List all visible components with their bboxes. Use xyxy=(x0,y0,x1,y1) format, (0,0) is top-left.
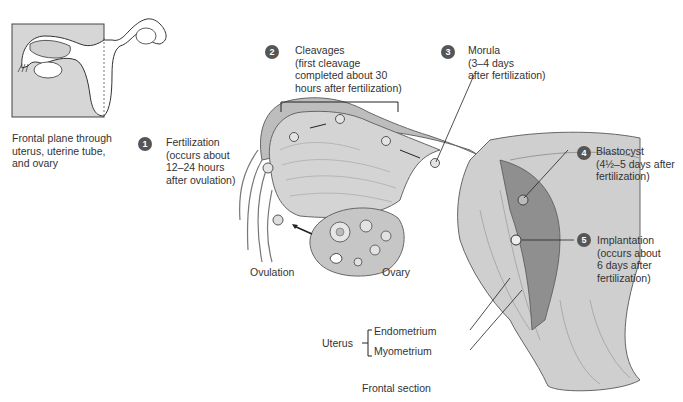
myometrium-label: Myometrium xyxy=(374,345,432,358)
step-4-label: Blastocyst (4½–5 days after fertilizatio… xyxy=(596,145,675,183)
step-1-label: Fertilization (occurs about 12–24 hours … xyxy=(166,136,235,186)
step-2-badge: 2 xyxy=(265,45,279,59)
endometrium-label: Endometrium xyxy=(374,325,436,338)
step-5-label: Implantation (occurs about 6 days after … xyxy=(597,234,661,284)
step-5-badge: 5 xyxy=(577,233,591,247)
step-1-badge: 1 xyxy=(138,137,152,151)
step-3-badge: 3 xyxy=(441,45,455,59)
inset-caption: Frontal plane through uterus, uterine tu… xyxy=(12,132,112,170)
step-3-label: Morula (3–4 days after fertilization) xyxy=(468,44,546,82)
inset-diagram xyxy=(12,19,166,117)
uterus-label: Uterus xyxy=(322,337,353,350)
ovulation-label: Ovulation xyxy=(250,266,294,279)
step-2-label: Cleavages (first cleavage completed abou… xyxy=(295,44,402,94)
uterus-bracket xyxy=(362,330,372,356)
ovary-label: Ovary xyxy=(382,266,410,279)
frontal-section-label: Frontal section xyxy=(362,382,431,395)
step-4-badge: 4 xyxy=(577,146,591,160)
